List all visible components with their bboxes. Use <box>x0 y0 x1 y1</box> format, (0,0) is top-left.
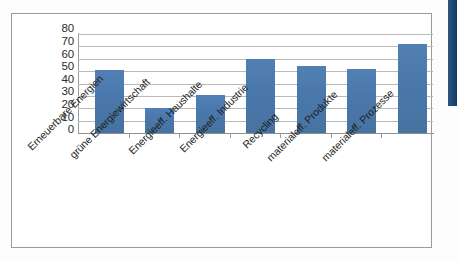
page-edge-strip <box>448 0 457 106</box>
plot-area <box>78 34 433 133</box>
y-axis-tick-label: 80 <box>62 23 74 35</box>
y-axis-tick-label: 50 <box>62 61 74 73</box>
chart-figure-frame: 80 70 60 50 40 30 20 10 0 <box>11 13 432 248</box>
bar <box>398 44 427 133</box>
gridline <box>78 34 433 35</box>
y-axis-tick-label: 70 <box>62 36 74 48</box>
y-axis-tick-label: 60 <box>62 49 74 61</box>
chart-plot-wrapper: 80 70 60 50 40 30 20 10 0 <box>12 14 433 249</box>
y-axis-tick-label: 0 <box>68 124 74 136</box>
gridline <box>78 46 433 47</box>
y-axis-tick-label: 40 <box>62 74 74 86</box>
x-axis-category-labels: Erneuerbare Energien grüne Energiewirtsc… <box>12 138 433 248</box>
scanned-page: 80 70 60 50 40 30 20 10 0 <box>0 0 460 261</box>
